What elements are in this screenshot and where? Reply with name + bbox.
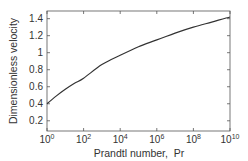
x-tick-label: 100 xyxy=(39,133,54,145)
chart: 0.20.40.60.811.21.4 1001021041061081010 … xyxy=(0,0,248,161)
y-tick-label: 1 xyxy=(37,47,43,58)
x-tick-label: 102 xyxy=(76,133,91,145)
y-tick-label: 0.8 xyxy=(29,64,43,75)
y-axis-label: Dimensionless velocity xyxy=(7,17,19,124)
y-tick-label: 1.4 xyxy=(29,13,43,24)
x-tick-label: 104 xyxy=(113,133,128,145)
y-tick-label: 0.4 xyxy=(29,98,43,109)
y-tick-label: 0.6 xyxy=(29,81,43,92)
plot-frame xyxy=(47,11,230,131)
data-line xyxy=(47,17,230,104)
y-tick-label: 1.2 xyxy=(29,30,43,41)
x-axis-ticks: 1001021041061081010 xyxy=(39,11,239,145)
x-tick-label: 106 xyxy=(149,133,164,145)
y-tick-label: 0.2 xyxy=(29,115,43,126)
y-axis-ticks: 0.20.40.60.811.21.4 xyxy=(29,13,230,126)
x-tick-label: 108 xyxy=(186,133,201,145)
x-axis-label: Prandtl number, Pr xyxy=(94,147,185,159)
x-tick-label: 1010 xyxy=(221,133,240,145)
